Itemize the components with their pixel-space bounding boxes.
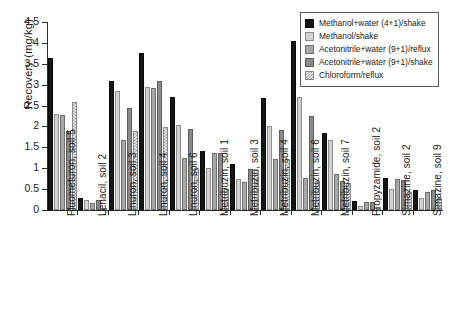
- legend-swatch-icon: [305, 71, 314, 80]
- bar: [303, 178, 308, 210]
- bar: [182, 158, 187, 210]
- y-tick-label: 2: [33, 119, 39, 131]
- bar: [200, 151, 205, 210]
- bar: [230, 164, 235, 210]
- legend-item: Acetonitrile+water (9+1)/reflux: [305, 43, 433, 56]
- bar: [419, 198, 424, 210]
- bar: [322, 133, 327, 210]
- bar: [212, 153, 217, 210]
- bar: [267, 126, 272, 210]
- bar: [151, 88, 156, 210]
- bar: [364, 202, 369, 210]
- x-axis-label: Fluometuron, soil 5: [66, 129, 77, 216]
- legend-label: Acetonitrile+water (9+1)/reflux: [319, 45, 431, 53]
- bar: [297, 97, 302, 210]
- bar: [395, 179, 400, 210]
- x-axis-label: Metribuzin, soil 6: [310, 139, 321, 216]
- bar: [352, 201, 357, 210]
- bar: [170, 97, 175, 210]
- bar: [291, 41, 296, 210]
- y-tick-label: 1.5: [24, 140, 39, 152]
- bar: [358, 206, 363, 210]
- bar: [273, 159, 278, 210]
- bar: [261, 98, 266, 210]
- x-axis-label: Lenacil, soil 2: [97, 154, 108, 216]
- y-tick-label: 3: [33, 78, 39, 90]
- y-tick-label: 4.5: [24, 15, 39, 27]
- bar: [54, 114, 59, 210]
- x-axis-label: Metribuzin, soil 7: [340, 139, 351, 216]
- y-tick-label: 0: [33, 203, 39, 215]
- y-tick-mark: [42, 210, 47, 211]
- bar: [84, 200, 89, 210]
- x-axis-label: Metribuzin, soil 4: [279, 139, 290, 216]
- bar: [206, 168, 211, 210]
- x-axis-label: Linuron, soil 3: [127, 152, 138, 216]
- legend-swatch-icon: [305, 45, 314, 54]
- legend-item: Methanol+water (4+1)/shake: [305, 17, 433, 30]
- bar: [236, 179, 241, 210]
- bar: [109, 81, 114, 211]
- bar: [48, 58, 53, 210]
- y-tick-label: 4: [33, 36, 39, 48]
- legend-label: Chloroform/reflux: [319, 71, 383, 79]
- legend-swatch-icon: [305, 32, 314, 41]
- legend-item: Methanol/shake: [305, 30, 433, 43]
- bar: [413, 190, 418, 210]
- legend-label: Methanol+water (4+1)/shake: [319, 19, 426, 27]
- x-axis-label: Simazine, soil 2: [401, 144, 412, 216]
- bar: [90, 203, 95, 210]
- legend-label: Methanol/shake: [319, 32, 378, 40]
- y-tick-label: 2.5: [24, 99, 39, 111]
- x-axis-label: Metribuzin, soil 3: [249, 139, 260, 216]
- bar: [389, 189, 394, 210]
- bar: [334, 174, 339, 210]
- y-tick-label: 3.5: [24, 57, 39, 69]
- bar: [383, 178, 388, 210]
- legend-item: Acetonitrile+water (9+1)/shake: [305, 56, 433, 69]
- chart-legend: Methanol+water (4+1)/shakeMethanol/shake…: [300, 12, 439, 87]
- legend-swatch-icon: [305, 58, 314, 67]
- x-axis-label: Propyzamide, soil 2: [371, 127, 382, 216]
- legend-label: Acetonitrile+water (9+1)/shake: [319, 58, 433, 66]
- bar: [176, 125, 181, 210]
- x-axis-label: Simazine, soil 9: [432, 144, 443, 216]
- bar-chart: Recovery (mg/kg) 00.511.522.533.544.5 Fl…: [0, 0, 453, 318]
- bar: [425, 192, 430, 210]
- bar: [145, 87, 150, 210]
- bar: [60, 115, 65, 210]
- legend-item: Chloroform/reflux: [305, 69, 433, 82]
- bar: [78, 198, 83, 210]
- bar: [242, 182, 247, 210]
- x-axis-label: Linuron, soil 4: [158, 152, 169, 216]
- y-tick-label: 1: [33, 161, 39, 173]
- x-axis-label: Linuron, soil 6: [188, 152, 199, 216]
- bar: [328, 140, 333, 210]
- bar: [121, 140, 126, 210]
- x-axis-label: Metribuzin, soil 1: [219, 139, 230, 216]
- y-tick-label: 0.5: [24, 182, 39, 194]
- legend-swatch-icon: [305, 19, 314, 28]
- bar: [115, 91, 120, 210]
- bar: [139, 53, 144, 210]
- x-axis-labels: Fluometuron, soil 5Lenacil, soil 2Linuro…: [47, 214, 443, 318]
